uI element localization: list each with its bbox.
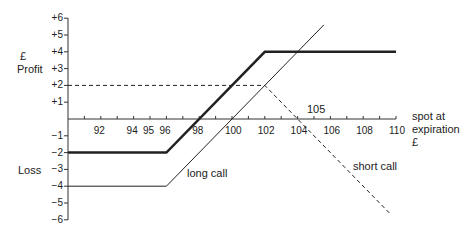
x-tick-label: 100 <box>225 124 242 137</box>
x-axis-label-line3: £ <box>412 136 418 149</box>
y-tick-label: −4 <box>52 179 63 192</box>
annotation-short-call: short call <box>353 160 397 173</box>
x-tick-label: 108 <box>356 124 373 137</box>
x-tick-label: 106 <box>323 124 340 137</box>
y-axis-label-loss: Loss <box>18 164 41 177</box>
series-long-call-line <box>68 25 324 186</box>
x-tick-label: 104 <box>291 124 308 137</box>
annotation-105: 105 <box>307 103 325 116</box>
x-axis-label-line2: expiration <box>412 123 460 136</box>
y-tick-label: +4 <box>52 45 63 58</box>
series-short-call-line <box>68 85 389 213</box>
annotation-long-call: long call <box>187 167 227 180</box>
x-tick-label: 92 <box>94 124 105 137</box>
x-tick-label: 94 <box>127 124 138 137</box>
x-tick-label: 96 <box>159 124 170 137</box>
y-tick-label: −2 <box>52 146 63 159</box>
y-tick-label: +5 <box>52 28 63 41</box>
x-tick-label: 95 <box>143 124 154 137</box>
y-tick-label: +2 <box>52 78 63 91</box>
y-axis-label-profit: Profit <box>17 63 43 76</box>
y-tick-label: −5 <box>52 196 63 209</box>
y-tick-label: −3 <box>52 162 63 175</box>
y-tick-label: +1 <box>52 95 63 108</box>
y-tick-label: −1 <box>52 129 63 142</box>
y-tick-label: +3 <box>52 62 63 75</box>
chart-canvas <box>0 0 474 234</box>
x-tick-label: 98 <box>192 124 203 137</box>
x-axis-label-line1: spot at <box>412 110 445 123</box>
y-tick-label: +6 <box>52 11 63 24</box>
x-tick-label: 102 <box>258 124 275 137</box>
y-tick-label: −6 <box>52 213 63 226</box>
series-combined-line <box>68 52 396 153</box>
x-tick-label: 110 <box>389 124 405 137</box>
y-axis-label-profit-currency: £ <box>20 50 26 63</box>
